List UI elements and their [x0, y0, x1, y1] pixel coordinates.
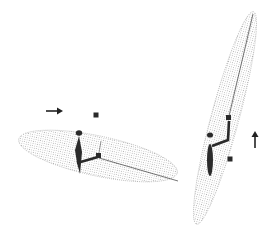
left-head: [76, 130, 82, 136]
right-marker-square: [228, 157, 233, 162]
right-ellipsoid: [183, 8, 267, 228]
left-joint-square: [96, 153, 101, 158]
right-panel: [183, 8, 267, 228]
left-marker-square: [94, 113, 99, 118]
left-arrow-right-icon: [46, 108, 63, 115]
figure-canvas: [0, 0, 278, 239]
right-joint-square: [226, 115, 231, 120]
left-panel: [15, 108, 182, 193]
right-body: [207, 144, 213, 176]
right-arrow-up-icon: [252, 131, 259, 148]
right-head: [207, 132, 213, 137]
